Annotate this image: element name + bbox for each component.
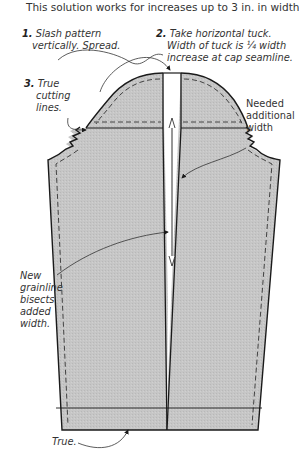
step2-annotation: 2. Take horizontal tuck. Width of tuck i… [156, 28, 293, 64]
sleeve-left-panel [48, 73, 168, 430]
step3-annotation: 3. True cutting lines. [24, 78, 70, 114]
true-hem-leader-arrow [78, 430, 128, 448]
step2-leader-line [58, 50, 163, 64]
sleeve-pattern-diagram [0, 0, 299, 476]
step1-annotation: 1. Slash pattern vertically. Spread. [22, 28, 120, 52]
true-hem-annotation: True. [52, 436, 77, 448]
grainline-annotation: New grainline bisects added width. [20, 270, 63, 330]
needed-width-annotation: Needed additional width [246, 98, 295, 134]
